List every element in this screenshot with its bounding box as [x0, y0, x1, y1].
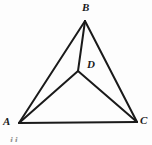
vertex-label-a: A [3, 116, 10, 127]
segment-AB [19, 21, 85, 123]
geometry-figure: B D A C ii [0, 0, 152, 145]
clipped-text-artifact: ii [10, 136, 20, 142]
segment-DC [78, 71, 137, 122]
vertex-label-d: D [87, 59, 95, 70]
vertex-label-b: B [82, 2, 89, 13]
segment-BC [85, 21, 137, 122]
vertex-label-c: C [140, 115, 147, 126]
interior-cevians [19, 21, 137, 123]
segment-AC [19, 122, 137, 123]
triangle-diagram-svg [0, 0, 152, 145]
